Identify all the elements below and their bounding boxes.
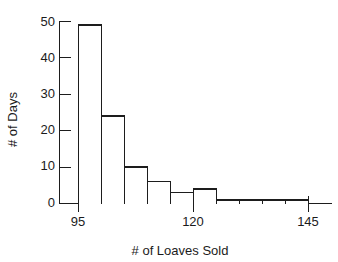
histogram-bar (79, 25, 102, 203)
histogram-bar (263, 200, 286, 204)
histogram-bar (171, 193, 194, 204)
y-tick-label-40: 40 (41, 50, 55, 65)
y-tick-label-30: 30 (41, 86, 55, 101)
x-axis-title: # of Loaves Sold (132, 243, 229, 258)
x-tick-label-145: 145 (297, 214, 319, 229)
histogram-bars (79, 25, 309, 203)
x-tick-label-120: 120 (182, 214, 204, 229)
histogram-bar (148, 182, 171, 204)
histogram-bar (217, 200, 240, 204)
y-tick-label-10: 10 (41, 158, 55, 173)
histogram-bar (240, 200, 263, 204)
y-tick-label-20: 20 (41, 122, 55, 137)
histogram-bar (286, 200, 309, 204)
x-tick-label-95: 95 (71, 214, 85, 229)
histogram-plot: # of Days # of Loaves Sold 50 40 30 20 1… (0, 0, 338, 262)
histogram-figure: # of Days # of Loaves Sold 50 40 30 20 1… (0, 0, 338, 262)
y-tick-label-0: 0 (48, 195, 55, 210)
histogram-bar (194, 189, 217, 204)
y-major-ticks (60, 22, 72, 168)
y-tick-label-50: 50 (41, 14, 55, 29)
histogram-bar (102, 116, 125, 203)
histogram-bar (125, 167, 148, 203)
y-axis-title: # of Days (5, 92, 20, 147)
